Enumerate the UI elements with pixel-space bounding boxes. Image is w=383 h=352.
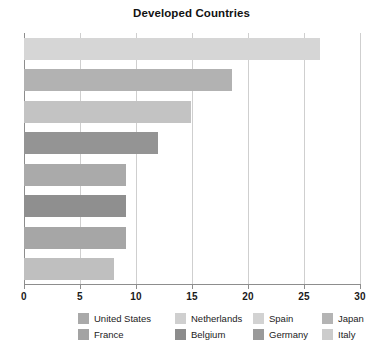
legend-item-japan[interactable]: Japan xyxy=(322,311,364,325)
chart-title: Developed Countries xyxy=(0,7,383,19)
bar-slot xyxy=(24,132,360,154)
legend-label: Spain xyxy=(269,313,293,324)
x-tick-label-30: 30 xyxy=(345,291,375,302)
bar-japan[interactable] xyxy=(24,132,158,154)
tick-mark-20 xyxy=(248,285,249,289)
bar-series xyxy=(24,33,360,285)
legend-item-netherlands[interactable]: Netherlands xyxy=(175,311,242,325)
legend-swatch-icon xyxy=(253,313,264,324)
bar-slot xyxy=(24,69,360,91)
legend-item-italy[interactable]: Italy xyxy=(322,327,355,341)
tick-mark-10 xyxy=(136,285,137,289)
bar-belgium[interactable] xyxy=(24,195,126,217)
tick-mark-15 xyxy=(192,285,193,289)
bar-chart: Developed Countries 051015202530 United … xyxy=(0,0,383,352)
tick-mark-5 xyxy=(80,285,81,289)
bar-slot xyxy=(24,38,360,60)
x-tick-label-25: 25 xyxy=(289,291,319,302)
legend-swatch-icon xyxy=(175,329,186,340)
plot-area xyxy=(24,33,360,285)
legend-item-france[interactable]: France xyxy=(78,327,124,341)
legend-row: United StatesNetherlandsSpainJapan xyxy=(0,311,383,325)
tick-mark-0 xyxy=(24,285,25,289)
legend-swatch-icon xyxy=(78,329,89,340)
tick-mark-30 xyxy=(360,285,361,289)
legend-label: Germany xyxy=(269,329,308,340)
x-tick-label-0: 0 xyxy=(9,291,39,302)
x-tick-label-10: 10 xyxy=(121,291,151,302)
legend-swatch-icon xyxy=(322,329,333,340)
bar-slot xyxy=(24,164,360,186)
legend-swatch-icon xyxy=(78,313,89,324)
legend-label: Japan xyxy=(338,313,364,324)
bar-slot xyxy=(24,101,360,123)
legend-swatch-icon xyxy=(253,329,264,340)
legend-item-germany[interactable]: Germany xyxy=(253,327,308,341)
bar-slot xyxy=(24,258,360,280)
bar-netherlands[interactable] xyxy=(24,69,232,91)
x-tick-label-15: 15 xyxy=(177,291,207,302)
legend-item-belgium[interactable]: Belgium xyxy=(175,327,225,341)
tick-mark-25 xyxy=(304,285,305,289)
bar-italy[interactable] xyxy=(24,258,114,280)
bar-france[interactable] xyxy=(24,164,126,186)
x-tick-label-5: 5 xyxy=(65,291,95,302)
bar-united-states[interactable] xyxy=(24,38,320,60)
legend-label: France xyxy=(94,329,124,340)
legend-label: Netherlands xyxy=(191,313,242,324)
legend-label: Belgium xyxy=(191,329,225,340)
bar-slot xyxy=(24,227,360,249)
legend-swatch-icon xyxy=(322,313,333,324)
gridline-30 xyxy=(360,33,361,285)
x-tick-label-20: 20 xyxy=(233,291,263,302)
bar-germany[interactable] xyxy=(24,227,126,249)
legend-label: United States xyxy=(94,313,151,324)
bar-slot xyxy=(24,195,360,217)
chart-legend: United StatesNetherlandsSpainJapanFrance… xyxy=(0,311,383,345)
legend-swatch-icon xyxy=(175,313,186,324)
legend-row: FranceBelgiumGermanyItaly xyxy=(0,327,383,341)
legend-label: Italy xyxy=(338,329,355,340)
legend-item-spain[interactable]: Spain xyxy=(253,311,293,325)
bar-spain[interactable] xyxy=(24,101,191,123)
legend-item-united-states[interactable]: United States xyxy=(78,311,151,325)
